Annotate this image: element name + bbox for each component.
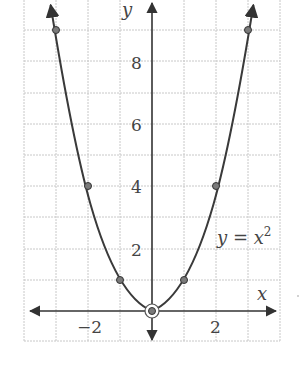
- point-neg3-9: [53, 27, 60, 34]
- stray-dot: [297, 295, 299, 297]
- y-tick-6: 6: [131, 115, 142, 135]
- point-neg1-1: [117, 277, 124, 284]
- x-tick-neg2: −2: [77, 317, 102, 337]
- parabola-chart: y x 8 6 4 2 −2 2 y = x2: [0, 0, 304, 367]
- equation-x: x: [254, 227, 264, 248]
- point-1-1: [181, 277, 188, 284]
- x-axis-label: x: [257, 283, 267, 304]
- y-tick-8: 8: [131, 53, 142, 73]
- point-3-9: [245, 27, 252, 34]
- equation-exponent: 2: [264, 225, 272, 239]
- y-tick-4: 4: [131, 177, 142, 197]
- equation-label: y = x2: [216, 225, 272, 248]
- x-tick-2: 2: [210, 317, 221, 337]
- vertex-point: [149, 308, 156, 315]
- y-axis-label: y: [121, 0, 133, 20]
- equation-equals: =: [227, 227, 254, 248]
- y-tick-2: 2: [131, 240, 142, 260]
- point-2-4: [213, 183, 220, 190]
- point-neg2-4: [85, 183, 92, 190]
